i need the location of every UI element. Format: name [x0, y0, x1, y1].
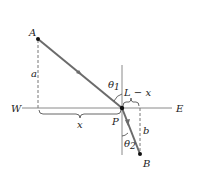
theta1-subscript: 1 [114, 82, 120, 92]
angle-arc-theta2 [122, 133, 128, 136]
label-height-b: b [143, 125, 149, 136]
label-west: W [11, 103, 22, 114]
label-p: P [111, 116, 119, 127]
label-x: x [77, 119, 83, 130]
point-b [138, 152, 142, 156]
brace-x [39, 110, 121, 118]
theta2-subscript: 2 [129, 141, 136, 151]
angle-arc-theta1 [114, 94, 122, 101]
label-a: A [28, 27, 36, 38]
point-p [120, 106, 124, 110]
label-l-minus-x: L − x [123, 87, 151, 98]
refraction-diagram: A a W E x P L − x b B θ1 θ2 [0, 0, 197, 176]
label-height-a: a [31, 68, 37, 79]
brace-l-minus-x [123, 98, 139, 106]
label-theta1: θ1 [108, 79, 120, 92]
label-east: E [175, 103, 184, 114]
label-b: B [142, 158, 150, 169]
point-a [36, 37, 40, 41]
